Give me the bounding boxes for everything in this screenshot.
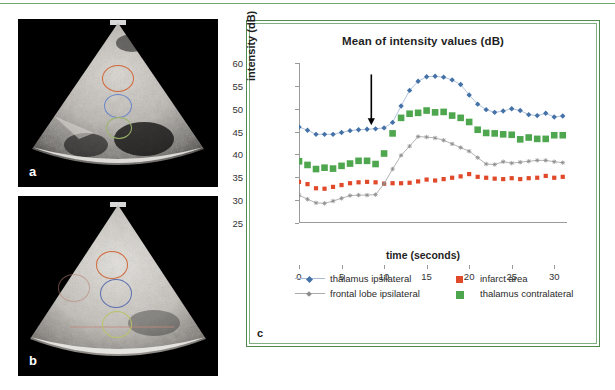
panel-c-label: c: [257, 327, 263, 339]
legend-label: thalamus ipsilateral: [330, 273, 411, 284]
legend-item-infarct-area[interactable]: infarct area: [445, 273, 585, 284]
legend-swatch-icon: [295, 274, 325, 284]
roi-extra-b: [58, 274, 90, 302]
legend-label: frontal lobe ipsilateral: [330, 288, 420, 299]
y-tick-label: 25: [219, 218, 243, 229]
y-axis-label: intensity (dB): [245, 11, 257, 81]
panel-a-label: a: [29, 164, 36, 179]
panel-c-chart-card: Mean of intensity values (dB) intensity …: [246, 20, 600, 347]
series-thalamus-contralateral: [299, 107, 566, 172]
legend-swatch-icon: [445, 289, 475, 299]
legend-label: infarct area: [480, 273, 528, 284]
chart-title: Mean of intensity values (dB): [247, 35, 599, 47]
series-canvas: [299, 63, 567, 223]
roi-frontal-a: [106, 117, 132, 139]
roi-thalamus-a: [104, 94, 132, 118]
panel-b-label: b: [29, 353, 37, 368]
y-tick-mark: [295, 86, 299, 87]
y-tick-label: 55: [219, 80, 243, 91]
top-rule: [0, 3, 615, 4]
chart-legend: thalamus ipsilateralinfarct areafrontal …: [295, 273, 585, 299]
roi-infarct-b: [96, 251, 128, 279]
legend-label: thalamus contralateral: [480, 288, 573, 299]
legend-item-thalamus-ipsilateral[interactable]: thalamus ipsilateral: [295, 273, 445, 284]
x-axis-label: time (seconds): [247, 249, 599, 261]
legend-item-thalamus-contralateral[interactable]: thalamus contralateral: [445, 288, 585, 299]
x-tick-mark: [384, 265, 385, 269]
series-frontal-lobe-ipsilateral: [299, 134, 565, 205]
x-tick-mark: [554, 265, 555, 269]
panel-b-ultrasound: b: [18, 196, 218, 376]
y-tick-mark: [295, 200, 299, 201]
y-tick-label: 60: [219, 58, 243, 69]
roi-frontal-b: [102, 311, 132, 338]
y-tick-mark: [295, 109, 299, 110]
y-tick-mark: [295, 223, 299, 224]
roi-thalamus-b: [100, 279, 132, 308]
series-infarct-area: [299, 172, 565, 191]
y-tick-label: 50: [219, 103, 243, 114]
roi-infarct-a: [102, 65, 134, 92]
series-thalamus-ipsilateral: [299, 74, 565, 137]
x-tick-mark: [512, 265, 513, 269]
y-tick-label: 45: [219, 126, 243, 137]
legend-swatch-icon: [295, 289, 325, 299]
y-tick-label: 30: [219, 195, 243, 206]
x-tick-mark: [299, 265, 300, 269]
legend-item-frontal-lobe-ipsilateral[interactable]: frontal lobe ipsilateral: [295, 288, 445, 299]
panel-a-ultrasound: a: [18, 19, 218, 187]
x-tick-mark: [469, 265, 470, 269]
x-tick-mark: [342, 265, 343, 269]
x-tick-mark: [427, 265, 428, 269]
y-tick-mark: [295, 132, 299, 133]
y-tick-mark: [295, 63, 299, 64]
y-tick-label: 35: [219, 172, 243, 183]
y-tick-mark: [295, 154, 299, 155]
y-tick-mark: [295, 177, 299, 178]
legend-swatch-icon: [445, 274, 475, 284]
y-tick-label: 40: [219, 149, 243, 160]
plot-area: 2530354045505560 051015202530: [299, 63, 567, 223]
